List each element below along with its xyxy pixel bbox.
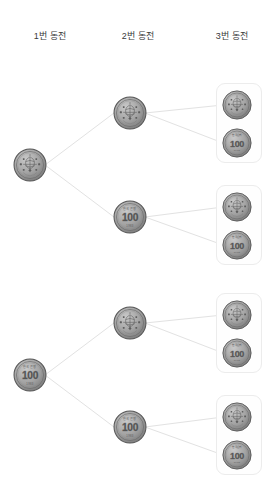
heads-coin-icon [222, 402, 252, 432]
tails-coin-icon: 한국은행 100 1983 [113, 200, 147, 234]
tails-coin: 한국은행 100 1983 [113, 410, 147, 444]
tails-coin: 한국은행 100 1983 [113, 200, 147, 234]
heads-coin-icon [13, 148, 47, 182]
coin-tree-diagram: 1번 동전 2번 동전 3번 동전 [0, 0, 276, 487]
heads-coin [222, 402, 252, 432]
svg-text:1983: 1983 [234, 359, 241, 362]
heads-coin-icon [222, 90, 252, 120]
tree-edge [45, 323, 114, 375]
tails-coin-icon: 한국은행 100 1983 [222, 440, 252, 470]
tree-edge [145, 417, 223, 427]
heads-coin [222, 300, 252, 330]
heads-coin [222, 192, 252, 222]
tails-coin: 한국은행 100 1983 [222, 440, 252, 470]
tails-coin-icon: 한국은행 100 1983 [222, 338, 252, 368]
svg-text:1983: 1983 [234, 149, 241, 152]
heads-coin [13, 148, 47, 182]
heads-coin-icon [222, 192, 252, 222]
svg-text:100: 100 [230, 451, 244, 461]
tree-edge [145, 323, 223, 353]
tails-coin-icon: 한국은행 100 1983 [13, 358, 47, 392]
svg-text:100: 100 [230, 241, 244, 251]
svg-text:100: 100 [230, 139, 244, 149]
svg-text:100: 100 [22, 370, 39, 381]
tree-edge [45, 375, 114, 427]
tree-edge [145, 105, 223, 113]
tails-coin-icon: 한국은행 100 1983 [113, 410, 147, 444]
heads-coin [113, 306, 147, 340]
heads-coin [222, 90, 252, 120]
tree-edge [145, 427, 223, 455]
tree-edge [45, 113, 114, 165]
tails-coin: 한국은행 100 1983 [13, 358, 47, 392]
tree-edge [145, 113, 223, 143]
svg-text:한국은행: 한국은행 [123, 416, 137, 421]
tails-coin-icon: 한국은행 100 1983 [222, 128, 252, 158]
heads-coin-icon [113, 306, 147, 340]
svg-text:1983: 1983 [234, 251, 241, 254]
heads-coin-icon [222, 300, 252, 330]
tree-edge [145, 217, 223, 245]
tails-coin-icon: 한국은행 100 1983 [222, 230, 252, 260]
svg-text:100: 100 [122, 422, 139, 433]
tails-coin: 한국은행 100 1983 [222, 128, 252, 158]
svg-text:100: 100 [230, 349, 244, 359]
svg-text:한국은행: 한국은행 [23, 364, 37, 369]
svg-text:100: 100 [122, 212, 139, 223]
tails-coin: 한국은행 100 1983 [222, 230, 252, 260]
tree-edge [145, 207, 223, 217]
tails-coin: 한국은행 100 1983 [222, 338, 252, 368]
tree-edge [45, 165, 114, 217]
tree-edge [145, 315, 223, 323]
svg-text:1983: 1983 [234, 461, 241, 464]
svg-text:한국은행: 한국은행 [123, 206, 137, 211]
heads-coin-icon [113, 96, 147, 130]
heads-coin [113, 96, 147, 130]
